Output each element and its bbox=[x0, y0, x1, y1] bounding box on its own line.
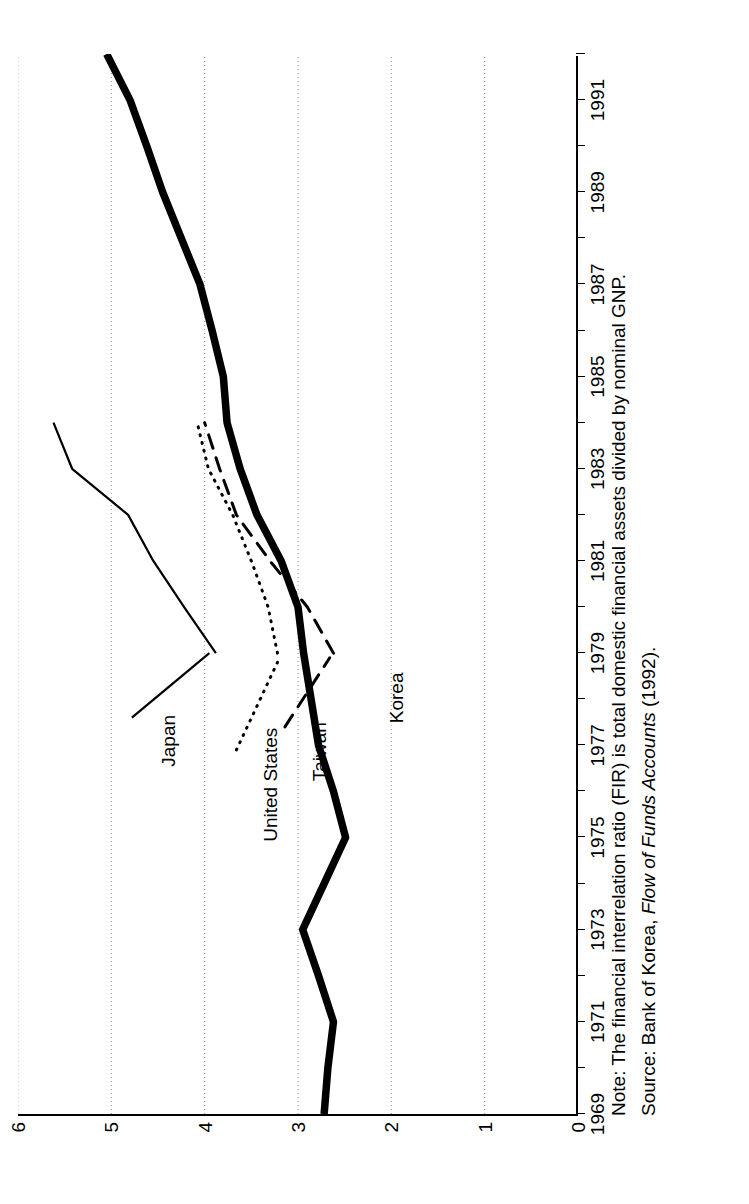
x-axis-tick-mark bbox=[576, 99, 585, 100]
y-axis-tick-label: 2 bbox=[382, 1122, 401, 1133]
japan-leader bbox=[132, 653, 209, 718]
y-axis-tick-label: 3 bbox=[289, 1122, 308, 1133]
x-axis-tick-mark bbox=[576, 1067, 585, 1068]
x-axis-tick-mark bbox=[576, 1021, 585, 1022]
x-axis-tick-mark bbox=[576, 606, 585, 607]
y-axis-tick-label: 5 bbox=[102, 1122, 121, 1133]
x-axis-tick-mark bbox=[576, 330, 585, 331]
x-axis-tick-mark bbox=[576, 237, 585, 238]
x-axis-tick-mark bbox=[576, 929, 585, 930]
x-axis-tick-mark bbox=[576, 790, 585, 791]
source-prefix: Source: Bank of Korea, bbox=[638, 914, 659, 1116]
note-line: Note: The financial interrelation ratio … bbox=[604, 26, 634, 1116]
y-axis-tick-label: 4 bbox=[195, 1122, 214, 1133]
figure-page: 0123456196919711973197519771979198119831… bbox=[0, 0, 749, 1204]
x-axis-tick-mark bbox=[576, 744, 585, 745]
rotated-figure-wrapper: 0123456196919711973197519771979198119831… bbox=[0, 0, 749, 1204]
x-axis-tick-mark bbox=[576, 514, 585, 515]
x-axis-tick-mark bbox=[576, 422, 585, 423]
series-annotation-united-states: United States bbox=[261, 728, 281, 842]
x-axis-tick-mark bbox=[576, 468, 585, 469]
x-axis-tick-mark bbox=[576, 191, 585, 192]
figure-notes: Note: The financial interrelation ratio … bbox=[604, 26, 664, 1116]
y-axis-tick-label: 0 bbox=[569, 1122, 588, 1133]
x-axis-tick-mark bbox=[576, 836, 585, 837]
x-axis-tick-mark bbox=[576, 53, 585, 54]
y-axis-tick-label: 6 bbox=[9, 1122, 28, 1133]
x-axis-tick-mark bbox=[576, 1113, 585, 1114]
series-line-korea bbox=[107, 54, 346, 1114]
x-axis-tick-mark bbox=[576, 283, 585, 284]
source-line: Source: Bank of Korea, Flow of Funds Acc… bbox=[634, 26, 664, 1116]
x-axis-tick-mark bbox=[576, 376, 585, 377]
series-annotation-japan: Japan bbox=[159, 715, 179, 767]
x-axis-tick-mark bbox=[576, 560, 585, 561]
x-axis-tick-mark bbox=[576, 698, 585, 699]
series-annotation-taiwan: Taiwan bbox=[310, 722, 330, 781]
source-suffix: (1992). bbox=[638, 647, 659, 712]
x-axis-tick-mark bbox=[576, 883, 585, 884]
x-axis-tick-mark bbox=[576, 975, 585, 976]
fir-line-chart: 0123456196919711973197519771979198119831… bbox=[0, 0, 749, 1204]
y-axis-tick-label: 1 bbox=[475, 1122, 494, 1133]
x-axis-tick-mark bbox=[576, 145, 585, 146]
series-annotation-korea: Korea bbox=[387, 673, 407, 724]
series-line-japan bbox=[53, 423, 215, 653]
plot-svg bbox=[18, 54, 578, 1114]
plot-area: 0123456196919711973197519771979198119831… bbox=[18, 56, 578, 1116]
x-axis-tick-mark bbox=[576, 652, 585, 653]
source-title: Flow of Funds Accounts bbox=[638, 712, 659, 914]
